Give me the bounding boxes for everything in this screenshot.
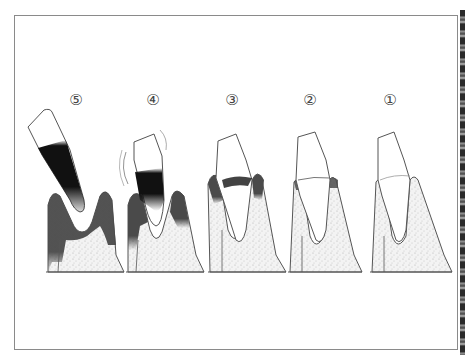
diagram-art [0,0,465,360]
stage-3-illustration [208,134,286,272]
stage-4-illustration [119,130,204,272]
stage-1-illustration [370,132,452,272]
stage-5-illustration [28,109,124,272]
stage-2-illustration [288,132,362,272]
